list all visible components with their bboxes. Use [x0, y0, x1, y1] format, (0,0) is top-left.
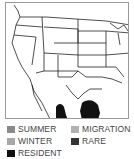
legend-item-winter: WINTER	[7, 136, 52, 146]
legend-item-rare: RARE	[71, 136, 106, 146]
legend-label: RARE	[82, 136, 106, 146]
resident-swatch-icon	[7, 150, 15, 157]
map-outline	[6, 3, 129, 119]
legend-label: WINTER	[18, 136, 52, 146]
legend-item-migration: MIGRATION	[71, 124, 130, 134]
legend-label: RESIDENT	[18, 148, 62, 158]
migration-swatch-icon	[71, 126, 79, 133]
legend-label: MIGRATION	[82, 124, 130, 134]
legend-item-summer: SUMMER	[7, 124, 56, 134]
winter-swatch-icon	[7, 138, 15, 145]
summer-swatch-icon	[7, 126, 15, 133]
range-map	[5, 2, 129, 119]
resident-range	[56, 100, 100, 119]
legend-label: SUMMER	[18, 124, 56, 134]
legend-item-resident: RESIDENT	[7, 148, 62, 158]
rare-swatch-icon	[71, 138, 79, 145]
